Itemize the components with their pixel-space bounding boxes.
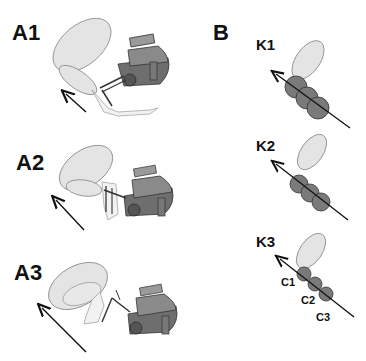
movement-arrow-icon (276, 74, 350, 128)
upper-arm-ellipse (43, 8, 121, 82)
cluster-circle-c2 (308, 277, 322, 291)
hand-shape (102, 182, 118, 220)
panel-label-b: B (213, 20, 229, 46)
panel-k3-drawing (280, 228, 354, 317)
circle-label-c2: C2 (301, 294, 315, 306)
circle-label-c1: C1 (281, 276, 295, 288)
panel-label-a1: A1 (12, 20, 40, 46)
panel-label-a2: A2 (16, 150, 44, 176)
panel-label-k1: K1 (256, 36, 275, 53)
upper-arm-ellipse (292, 129, 333, 174)
hand-shape (92, 90, 158, 116)
panel-label-k3: K3 (256, 233, 275, 250)
panel-label-k2: K2 (256, 137, 275, 154)
panel-a2-drawing (51, 136, 173, 230)
robot-manipulandum (102, 284, 177, 334)
panel-a3-drawing (40, 253, 177, 352)
panel-k1-drawing (276, 35, 350, 128)
panel-label-a3: A3 (14, 260, 42, 286)
movement-arrow-icon (42, 308, 86, 352)
panel-a1-drawing (43, 8, 169, 116)
robot-manipulandum (100, 34, 169, 106)
movement-arrow-icon (280, 259, 354, 317)
movement-arrow-icon (66, 94, 86, 112)
movement-arrow-icon (56, 200, 84, 230)
panel-k2-drawing (276, 129, 348, 220)
upper-arm-ellipse (291, 228, 332, 273)
movement-arrow-icon (276, 164, 348, 220)
cluster-circle (312, 193, 330, 211)
cluster-circle (307, 97, 329, 119)
figure-canvas (0, 0, 366, 361)
circle-label-c3: C3 (316, 311, 330, 323)
